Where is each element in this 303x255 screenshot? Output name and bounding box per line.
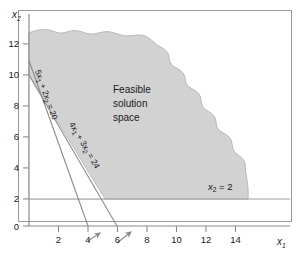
figure-feasible-solution-space: 0 2 4 6 8 10 12 2 4 6 8 10 12 14 x2 x1 F…	[0, 0, 303, 255]
y-tick-label: 2	[14, 193, 19, 204]
y-tick-label: 12	[8, 38, 19, 49]
x-tick-label: 4	[85, 234, 90, 245]
x-tick-label: 8	[144, 234, 149, 245]
x-axis-ticks	[59, 226, 236, 232]
x-tick-labels: 2 4 6 8 10 12 14	[56, 234, 241, 245]
y-tick-label: 4	[14, 162, 19, 173]
x-axis-label: x1	[276, 236, 286, 249]
x-tick-label: 2	[56, 234, 61, 245]
y-tick-label: 10	[8, 69, 19, 80]
y-axis-label: x2	[11, 9, 21, 22]
region-label-line1: Feasible	[113, 84, 151, 95]
x-tick-label: 6	[115, 234, 120, 245]
y-axis-ticks	[23, 44, 29, 226]
region-label-line3: space	[113, 112, 140, 123]
constraint-label-x2-equals-2: x2 = 2	[207, 181, 233, 193]
x-tick-label: 12	[201, 234, 212, 245]
y-tick-label: 8	[14, 100, 19, 111]
plot-canvas: 0 2 4 6 8 10 12 2 4 6 8 10 12 14 x2 x1 F…	[0, 0, 303, 255]
y-tick-label: 0	[14, 221, 19, 232]
y-tick-label: 6	[14, 131, 19, 142]
x-tick-label: 10	[171, 234, 182, 245]
x-tick-label: 14	[230, 234, 241, 245]
y-tick-labels: 0 2 4 6 8 10 12	[8, 38, 19, 231]
region-label-line2: solution	[113, 98, 147, 109]
